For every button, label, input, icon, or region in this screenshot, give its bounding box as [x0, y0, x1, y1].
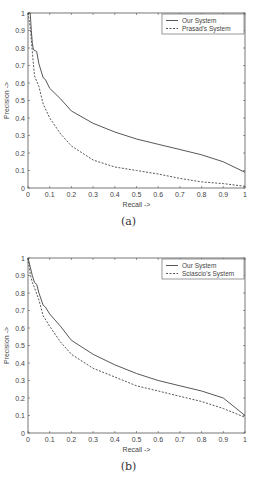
x-tick-label: 0.5	[132, 436, 142, 443]
x-tick-label: 0.4	[110, 436, 120, 443]
x-tick-label: 0.3	[88, 191, 98, 198]
y-tick-label: 0.2	[15, 150, 25, 157]
x-tick-label: 0	[26, 191, 30, 198]
x-tick-label: 0.8	[197, 436, 207, 443]
x-tick-label: 0.3	[88, 436, 98, 443]
y-tick-label: 0.1	[15, 167, 25, 174]
legend-label: Prasad's System	[182, 25, 231, 33]
legend: Our SystemSciascio's System	[162, 259, 244, 279]
y-tick-label: 0.7	[15, 307, 25, 314]
y-tick-label: 0.4	[15, 360, 25, 367]
x-tick-label: 0.8	[197, 191, 207, 198]
y-tick-label: 0.6	[15, 325, 25, 332]
y-tick-label: 1	[21, 10, 25, 17]
y-tick-label: 0.3	[15, 132, 25, 139]
chart-a: 00.10.20.30.40.50.60.70.80.9100.10.20.30…	[0, 0, 257, 240]
x-tick-label: 1	[243, 436, 247, 443]
caption-a: (a)	[0, 215, 257, 228]
y-tick-label: 0.1	[15, 412, 25, 419]
caption-b: (b)	[0, 460, 257, 473]
x-tick-label: 0.6	[153, 436, 163, 443]
y-tick-label: 0.5	[15, 342, 25, 349]
y-tick-label: 0.6	[15, 80, 25, 87]
y-tick-label: 0.5	[15, 97, 25, 104]
x-tick-label: 0.2	[67, 436, 77, 443]
y-tick-label: 0.9	[15, 27, 25, 34]
y-tick-label: 0.8	[15, 45, 25, 52]
chart-b: 00.10.20.30.40.50.60.70.80.9100.10.20.30…	[0, 245, 257, 486]
x-tick-label: 0.7	[175, 436, 185, 443]
legend: Our SystemPrasad's System	[162, 14, 244, 34]
x-tick-label: 0.2	[67, 191, 77, 198]
y-tick-label: 1	[21, 255, 25, 262]
x-tick-label: 0.1	[45, 191, 55, 198]
x-tick-label: 0.7	[175, 191, 185, 198]
y-tick-label: 0.8	[15, 290, 25, 297]
plot-area	[28, 258, 245, 433]
y-tick-label: 0	[21, 185, 25, 192]
x-tick-label: 1	[243, 191, 247, 198]
x-tick-label: 0.1	[45, 436, 55, 443]
y-tick-label: 0	[21, 430, 25, 437]
x-tick-label: 0.6	[153, 191, 163, 198]
x-tick-label: 0.9	[218, 191, 228, 198]
y-tick-label: 0.9	[15, 272, 25, 279]
y-tick-label: 0.3	[15, 377, 25, 384]
y-tick-label: 0.7	[15, 62, 25, 69]
x-tick-label: 0.9	[218, 436, 228, 443]
y-axis-title: Precision ->	[3, 82, 10, 119]
x-axis-title: Recall ->	[123, 201, 151, 208]
y-axis-title: Precision ->	[3, 327, 10, 364]
y-tick-label: 0.2	[15, 395, 25, 402]
x-axis-title: Recall ->	[123, 446, 151, 453]
legend-label: Sciascio's System	[182, 270, 234, 278]
legend-label: Our System	[182, 17, 216, 25]
y-tick-label: 0.4	[15, 115, 25, 122]
legend-label: Our System	[182, 262, 216, 270]
x-tick-label: 0	[26, 436, 30, 443]
x-tick-label: 0.4	[110, 191, 120, 198]
x-tick-label: 0.5	[132, 191, 142, 198]
plot-area	[28, 13, 245, 188]
